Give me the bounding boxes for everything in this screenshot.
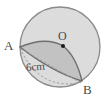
point-label-b: B (83, 83, 92, 96)
center-label-o: O (58, 30, 67, 42)
figure-canvas (0, 0, 109, 106)
measure-label-6cm: 6cm (26, 61, 46, 73)
center-point-dot (61, 44, 65, 48)
geometry-figure: A B O 6cm (0, 0, 109, 106)
point-label-a: A (4, 39, 13, 52)
